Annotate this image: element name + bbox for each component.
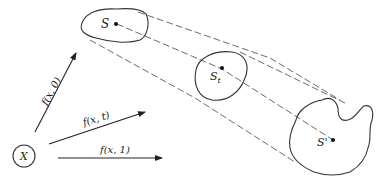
region-s-prime-label: S' [317, 136, 328, 149]
arrow-f-x-0-label: f(x, 0) [39, 75, 63, 108]
arrow-f-x-1: f(x, 1) [58, 144, 162, 158]
region-st-label: St [210, 70, 222, 85]
homotopy-diagram: S St S' X f(x, 0) f(x, t) f(x, 1) [0, 0, 385, 186]
source-node-label: X [19, 150, 29, 163]
region-s: S [81, 9, 148, 43]
arrow-f-x-t: f(x, t) [49, 109, 145, 144]
source-node-x: X [13, 145, 35, 167]
region-s-label: S [101, 17, 109, 31]
arrow-f-x-0: f(x, 0) [35, 53, 76, 132]
arrow-f-x-1-label: f(x, 1) [99, 144, 130, 155]
dashed-connector-lines [90, 12, 345, 162]
region-s-prime: S' [289, 98, 372, 175]
region-st: St [195, 52, 247, 101]
